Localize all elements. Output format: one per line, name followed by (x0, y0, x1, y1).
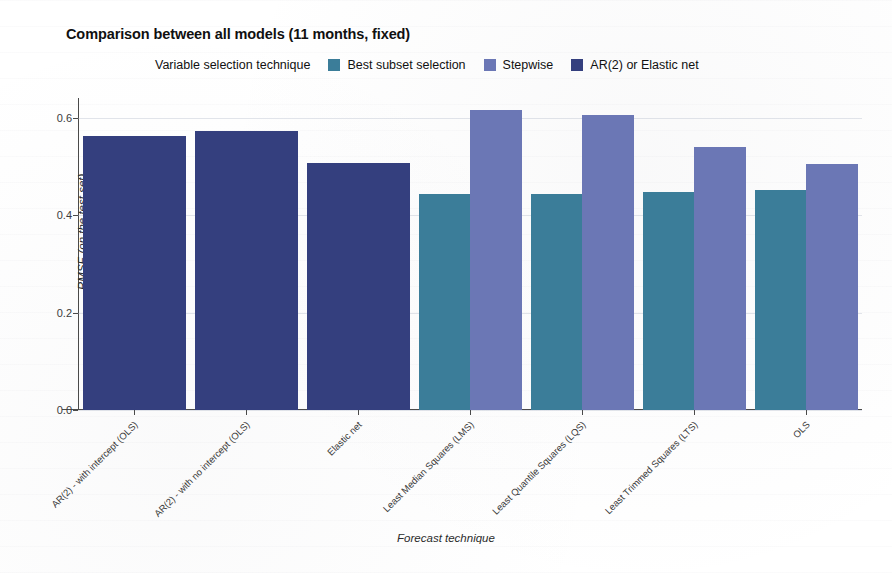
x-tick-mark (470, 410, 471, 415)
bar[interactable] (694, 147, 746, 410)
legend-title: Variable selection technique (155, 58, 310, 72)
y-tick-label: 0.4 (57, 209, 72, 221)
legend-item-best-subset-selection[interactable]: Best subset selection (328, 58, 465, 72)
legend-label-ar2-or-elastic-net: AR(2) or Elastic net (590, 58, 698, 72)
x-tick-label: AR(2) - with intercept (OLS) (49, 419, 140, 510)
x-tick-label: Least Trimmed Squares (LTS) (603, 419, 700, 516)
y-tick-label: 0.2 (57, 307, 72, 319)
legend-item-ar2-or-elastic-net[interactable]: AR(2) or Elastic net (571, 58, 698, 72)
x-tick-mark (694, 410, 695, 415)
chart-figure: Comparison between all models (11 months… (0, 0, 892, 573)
x-tick-mark (358, 410, 359, 415)
x-tick-label: Least Median Squares (LMS) (381, 419, 476, 514)
y-tick-label: 0.6 (57, 112, 72, 124)
y-tick-mark (73, 410, 78, 411)
chart-legend: Variable selection technique Best subset… (155, 58, 708, 72)
bar[interactable] (755, 190, 807, 410)
legend-swatch-ar2-or-elastic-net (571, 59, 583, 71)
legend-swatch-stepwise (484, 59, 496, 71)
plot-area: 0.00.20.40.6 RMSE (on the test set) (78, 98, 862, 410)
bar-series-layer (78, 98, 862, 410)
x-tick-label: Least Quantile Squares (LQS) (490, 419, 588, 517)
x-tick-mark (582, 410, 583, 415)
x-tick-mark (246, 410, 247, 415)
bar[interactable] (419, 194, 471, 410)
legend-item-stepwise[interactable]: Stepwise (484, 58, 554, 72)
y-tick-label: 0.0 (57, 404, 72, 416)
bar[interactable] (531, 194, 583, 410)
bar[interactable] (806, 164, 858, 410)
x-axis-title: Forecast technique (0, 532, 892, 544)
bar[interactable] (643, 192, 695, 410)
x-tick-label: AR(2) - with no intercept (OLS) (152, 419, 252, 519)
x-tick-label: Elastic net (325, 419, 364, 458)
chart-title: Comparison between all models (11 months… (66, 26, 410, 42)
bar[interactable] (582, 115, 634, 410)
bar[interactable] (307, 163, 410, 410)
legend-label-best-subset-selection: Best subset selection (347, 58, 465, 72)
legend-label-stepwise: Stepwise (503, 58, 554, 72)
bar[interactable] (470, 110, 522, 410)
legend-swatch-best-subset-selection (328, 59, 340, 71)
bar[interactable] (83, 136, 186, 410)
bar[interactable] (195, 131, 298, 410)
x-tick-mark (806, 410, 807, 415)
x-tick-label: OLS (791, 419, 812, 440)
x-tick-mark (134, 410, 135, 415)
